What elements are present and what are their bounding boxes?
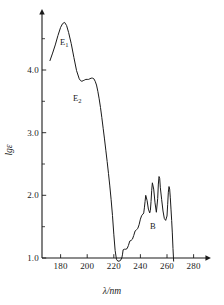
band-label-e2-subscript: 2 (78, 97, 81, 104)
band-label-b: B (150, 221, 156, 231)
y-tick-label-1-0: 1.0 (18, 253, 39, 263)
band-label-e2: E2 (73, 93, 81, 103)
band-label-e1: E1 (60, 37, 68, 47)
band-label-e1-subscript: 1 (65, 41, 68, 48)
x-axis-title: λ/nm (103, 286, 121, 296)
x-tick-label-280: 280 (187, 261, 201, 271)
x-tick-label-180: 180 (54, 261, 68, 271)
x-tick-label-200: 200 (80, 261, 94, 271)
y-tick-label-3-0: 3.0 (18, 128, 39, 138)
uv-vis-spectrum-figure: 180 200 220 240 260 280 1.0 2.0 3.0 4.0 … (0, 0, 224, 305)
y-tick-label-4-0: 4.0 (18, 65, 39, 75)
y-tick-label-2-0: 2.0 (18, 190, 39, 200)
x-tick-label-260: 260 (160, 261, 174, 271)
x-tick-label-240: 240 (133, 261, 147, 271)
x-tick-label-220: 220 (107, 261, 121, 271)
y-axis-title: lgε (4, 144, 14, 155)
